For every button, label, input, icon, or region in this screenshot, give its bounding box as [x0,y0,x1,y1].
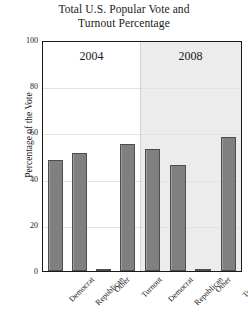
bar [96,269,111,271]
bar [72,153,87,271]
x-tick-label: Turnout [241,275,248,299]
x-tick-label: Turnout [139,275,163,299]
bar [120,144,135,271]
y-tick-label: 20 [14,222,38,230]
bar [48,160,63,271]
bar [221,137,237,271]
bar [145,149,161,271]
y-tick-label: 40 [14,176,38,184]
y-tick-label: 80 [14,83,38,91]
y-tick-label: 60 [14,129,38,137]
plot-area: 2004 2008 [42,41,242,272]
y-tick-label: 100 [14,37,38,45]
y-tick-label: 0 [14,268,38,276]
x-tick-label: Democrat [67,275,96,304]
bar [170,165,186,271]
x-tick-label: Democrat [166,275,195,304]
bar-series [43,42,241,271]
bar [195,269,211,271]
y-axis-ticks: 020406080100 [6,0,38,335]
chart-container: Total U.S. Popular Vote and Turnout Perc… [0,0,248,335]
x-axis-tick-labels: DemocratRepublicanOtherTurnoutDemocratRe… [42,272,242,335]
chart-title-line1: Total U.S. Popular Vote and [58,3,189,15]
